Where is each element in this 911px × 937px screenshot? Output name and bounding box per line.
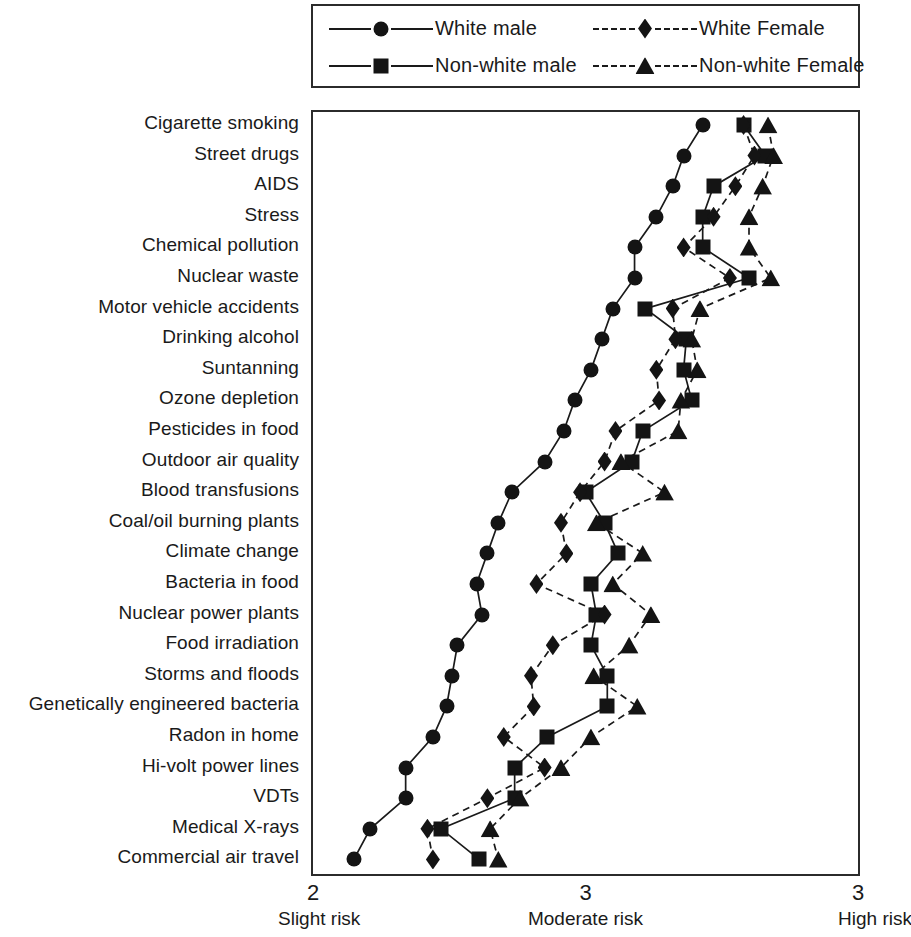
data-point-marker xyxy=(695,240,710,255)
y-axis-label: Drinking alcohol xyxy=(162,326,299,348)
data-point-marker xyxy=(346,852,361,867)
data-point-marker xyxy=(578,485,593,500)
y-axis-category-labels: Cigarette smokingStreet drugsAIDSStressC… xyxy=(0,110,305,876)
square-marker-icon xyxy=(374,58,389,73)
data-point-marker xyxy=(633,545,652,562)
data-point-marker xyxy=(472,852,487,867)
data-point-marker xyxy=(524,666,538,686)
data-point-marker xyxy=(363,821,378,836)
data-point-marker xyxy=(581,729,600,746)
y-axis-label: Commercial air travel xyxy=(117,846,299,868)
data-point-marker xyxy=(507,791,522,806)
data-point-marker xyxy=(584,667,603,684)
data-point-marker xyxy=(474,607,489,622)
data-point-marker xyxy=(677,237,691,257)
y-axis-label: Motor vehicle accidents xyxy=(98,296,299,318)
data-point-marker xyxy=(481,820,500,837)
y-axis-label: Nuclear waste xyxy=(177,265,299,287)
data-point-marker xyxy=(600,699,615,714)
x-axis-tick: 2 xyxy=(307,880,319,906)
data-point-marker xyxy=(426,849,440,869)
data-point-marker xyxy=(554,513,568,533)
data-point-marker xyxy=(742,271,757,286)
y-axis-label: Blood transfusions xyxy=(141,479,299,501)
data-point-marker xyxy=(589,607,604,622)
data-point-marker xyxy=(676,148,691,163)
y-axis-label: Cigarette smoking xyxy=(144,112,299,134)
data-point-marker xyxy=(597,515,612,530)
legend-label-white-male: White male xyxy=(435,17,537,40)
y-axis-label: Hi-volt power lines xyxy=(142,755,299,777)
data-point-marker xyxy=(736,118,751,133)
data-point-marker xyxy=(753,178,772,195)
data-point-marker xyxy=(551,759,570,776)
data-point-marker xyxy=(583,577,598,592)
legend-sample-diamond-dashed xyxy=(591,17,699,41)
data-point-marker xyxy=(507,760,522,775)
data-point-marker xyxy=(676,362,691,377)
data-point-marker xyxy=(504,485,519,500)
data-point-marker xyxy=(480,546,495,561)
data-point-marker xyxy=(583,638,598,653)
data-point-marker xyxy=(688,361,707,378)
x-axis-tick: 3 xyxy=(852,880,864,906)
y-axis-label: Street drugs xyxy=(194,143,299,165)
data-point-marker xyxy=(594,332,609,347)
data-point-marker xyxy=(620,637,639,654)
data-point-marker xyxy=(497,727,511,747)
data-point-marker xyxy=(635,424,650,439)
plot-area xyxy=(311,110,860,876)
legend-row: Non-white male Non-white Female xyxy=(313,47,858,84)
data-point-marker xyxy=(444,668,459,683)
data-point-marker xyxy=(480,788,494,808)
data-point-marker xyxy=(587,514,606,531)
y-axis-label: Food irradiation xyxy=(165,632,299,654)
legend-label-white-female: White Female xyxy=(699,17,825,40)
y-axis-label: VDTs xyxy=(253,785,299,807)
data-point-marker xyxy=(655,484,674,501)
legend-entry-non-white-female: Non-white Female xyxy=(581,47,856,84)
data-point-marker xyxy=(573,482,587,502)
data-point-marker xyxy=(679,332,694,347)
data-point-marker xyxy=(761,270,780,287)
data-point-marker xyxy=(598,452,612,472)
data-point-marker xyxy=(540,730,555,745)
data-point-marker xyxy=(758,148,773,163)
y-axis-label: Bacteria in food xyxy=(165,571,299,593)
data-point-marker xyxy=(684,393,699,408)
legend-label-non-white-male: Non-white male xyxy=(435,54,577,77)
x-axis-captions: Slight riskModerate riskHigh risk xyxy=(0,908,911,936)
data-point-marker xyxy=(603,576,622,593)
data-point-marker xyxy=(764,147,783,164)
data-point-marker xyxy=(598,605,612,625)
legend-sample-triangle-dashed xyxy=(591,54,699,78)
data-point-marker xyxy=(567,393,582,408)
data-point-marker xyxy=(638,301,653,316)
data-point-marker xyxy=(489,851,508,868)
data-point-marker xyxy=(707,207,721,227)
data-point-marker xyxy=(559,543,573,563)
data-point-marker xyxy=(649,360,663,380)
data-point-marker xyxy=(627,271,642,286)
legend-row: White male White Female xyxy=(313,10,858,47)
data-point-marker xyxy=(668,329,682,349)
data-point-marker xyxy=(511,790,530,807)
data-point-marker xyxy=(537,454,552,469)
data-point-marker xyxy=(527,696,541,716)
legend-label-non-white-female: Non-white Female xyxy=(699,54,865,77)
data-point-marker xyxy=(583,362,598,377)
legend-entry-white-male: White male xyxy=(313,10,581,47)
data-point-marker xyxy=(611,546,626,561)
y-axis-label: Outdoor air quality xyxy=(142,449,299,471)
data-point-marker xyxy=(556,424,571,439)
data-point-marker xyxy=(538,758,552,778)
data-point-marker xyxy=(450,638,465,653)
data-point-marker xyxy=(439,699,454,714)
y-axis-label: Radon in home xyxy=(169,724,299,746)
data-point-marker xyxy=(728,176,742,196)
y-axis-label: Pesticides in food xyxy=(148,418,299,440)
data-point-marker xyxy=(627,240,642,255)
data-point-marker xyxy=(740,208,759,225)
x-axis-caption: Slight risk xyxy=(278,908,360,930)
data-point-marker xyxy=(600,668,615,683)
